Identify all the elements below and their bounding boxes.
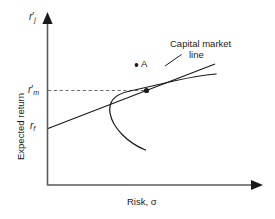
capital-market-line-figure: r′j r′m rf Expected return Risk, σ Capit… <box>0 0 275 219</box>
y-axis-variable-label: r′j <box>29 11 36 23</box>
x-axis-title: Risk, σ <box>127 197 157 208</box>
y-axis-arrowhead <box>42 12 52 24</box>
point-a-marker <box>135 63 139 67</box>
tick-market-return-subscript: m <box>33 89 39 96</box>
market-portfolio-point <box>144 88 149 93</box>
chart-canvas <box>0 0 275 219</box>
capital-market-line <box>48 64 215 129</box>
tick-label-risk-free: rf <box>30 120 35 132</box>
point-a-label: A <box>141 59 147 70</box>
capital-market-line-annotation: Capital market line <box>170 39 231 60</box>
x-axis-arrowhead <box>251 180 263 190</box>
tick-label-market-return: r′m <box>28 84 39 96</box>
tick-risk-free-subscript: f <box>33 125 35 132</box>
cml-annotation-line-2: line <box>189 50 231 61</box>
y-axis-title: Expected return <box>16 93 27 160</box>
efficient-frontier-curve <box>110 74 216 150</box>
y-axis-variable-subscript: j <box>34 16 36 23</box>
